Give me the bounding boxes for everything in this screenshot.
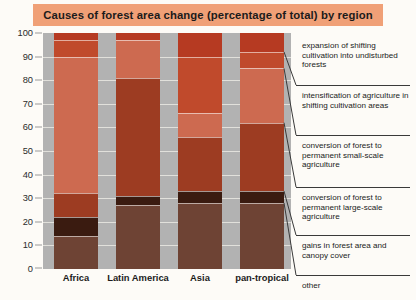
y-axis-tick-label: 40 [23, 170, 33, 180]
bar-segment [54, 217, 98, 236]
legend-item-2[interactable]: conversion of forest to permanent small-… [296, 141, 414, 170]
bar-segment [240, 191, 284, 203]
bar-segment [116, 40, 160, 78]
legend-divider [296, 275, 410, 276]
bar-segment [116, 33, 160, 40]
bar-segment [240, 203, 284, 269]
legend-divider [296, 85, 410, 86]
legend-divider [296, 235, 410, 236]
y-axis-tick-mark [35, 268, 42, 269]
y-axis-tick-mark [35, 103, 42, 104]
bar-segment [240, 68, 284, 122]
bar-asia [178, 33, 222, 269]
bar-segment [178, 191, 222, 203]
legend-item-label: gains in forest area and canopy cover [296, 241, 414, 260]
legend-item-label: other [296, 281, 414, 291]
plot-area [43, 33, 291, 269]
y-axis-tick-label: 100 [17, 28, 33, 38]
bar-segment [178, 137, 222, 191]
y-axis-tick-label: 70 [23, 99, 33, 109]
legend-item-3[interactable]: conversion of forest to permanent large-… [296, 193, 414, 222]
y-axis: 1009080706050403020100 [0, 33, 43, 269]
y-axis-tick-mark [35, 245, 42, 246]
y-axis-tick-mark [35, 33, 42, 34]
y-axis-tick-mark [35, 151, 42, 152]
legend-item-5[interactable]: other [296, 281, 414, 291]
y-axis-tick-mark [35, 56, 42, 57]
legend-item-1[interactable]: intensification of agriculture in shifti… [296, 91, 414, 110]
bar-segment [178, 33, 222, 57]
y-axis-tick-label: 30 [23, 193, 33, 203]
y-axis-tick-label: 0 [28, 264, 33, 274]
x-axis-label-africa: Africa [63, 272, 90, 283]
y-axis-tick-mark [35, 174, 42, 175]
bar-africa [54, 33, 98, 269]
legend-divider [296, 135, 410, 136]
y-axis-tick-mark [35, 127, 42, 128]
chart-legend: expansion of shifting cultivation into u… [296, 33, 416, 283]
bar-segment [116, 205, 160, 269]
y-axis-tick-label: 80 [23, 75, 33, 85]
y-axis-tick-mark [35, 198, 42, 199]
y-axis-tick-label: 10 [23, 240, 33, 250]
x-axis-label-asia: Asia [190, 272, 210, 283]
bar-latin-america [116, 33, 160, 269]
y-axis-tick-label: 50 [23, 146, 33, 156]
bar-segment [240, 33, 284, 52]
bar-pan-tropical [240, 33, 284, 269]
legend-item-label: intensification of agriculture in shifti… [296, 91, 414, 110]
bar-segment [54, 40, 98, 57]
x-axis-label-pan-tropical: pan-tropical [235, 272, 289, 283]
bar-segment [54, 33, 98, 40]
legend-item-label: conversion of forest to permanent large-… [296, 193, 414, 222]
legend-item-4[interactable]: gains in forest area and canopy cover [296, 241, 414, 260]
chart-figure: Causes of forest area change (percentage… [0, 0, 416, 300]
bar-segment [240, 123, 284, 191]
y-axis-tick-mark [35, 80, 42, 81]
page-title: Causes of forest area change (percentage… [43, 9, 372, 21]
bar-segment [178, 113, 222, 137]
bar-segment [54, 236, 98, 269]
y-axis-tick-mark [35, 221, 42, 222]
chart-title-banner: Causes of forest area change (percentage… [33, 4, 383, 26]
bar-segment [116, 78, 160, 196]
bar-segment [54, 193, 98, 217]
x-axis-label-latin-america: Latin America [107, 272, 169, 283]
bar-segment [54, 57, 98, 194]
y-axis-tick-label: 60 [23, 122, 33, 132]
y-axis-tick-label: 20 [23, 217, 33, 227]
bar-segment [116, 196, 160, 205]
bar-segment [240, 52, 284, 69]
y-axis-tick-label: 90 [23, 52, 33, 62]
legend-item-label: expansion of shifting cultivation into u… [296, 41, 414, 70]
legend-divider [296, 187, 410, 188]
bar-segment [178, 57, 222, 114]
legend-item-label: conversion of forest to permanent small-… [296, 141, 414, 170]
legend-item-0[interactable]: expansion of shifting cultivation into u… [296, 41, 414, 70]
bar-segment [178, 203, 222, 269]
